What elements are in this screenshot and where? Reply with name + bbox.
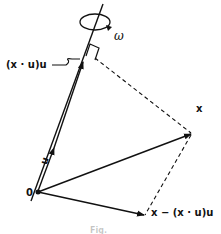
unit-vector-u-arrow [38, 148, 54, 191]
origin-point [36, 190, 41, 195]
figure-caption: Fig. [90, 226, 107, 234]
projection-arrow [54, 62, 83, 148]
rotation-diagram: (x · u)u ω u 0 x x − (x · u)u Fig. [0, 0, 221, 234]
label-x: x [196, 103, 203, 114]
dashed-x-to-perpendicular [145, 135, 191, 215]
label-origin: 0 [26, 187, 33, 198]
label-u: u [38, 155, 51, 165]
position-vector-x [38, 134, 191, 192]
projection-leader [52, 59, 80, 65]
label-perpendicular: x − (x · u)u [151, 207, 213, 218]
dashed-projection-to-x [95, 58, 191, 133]
label-projection: (x · u)u [6, 59, 47, 70]
label-omega: ω [114, 29, 124, 43]
perpendicular-vector [38, 192, 144, 215]
